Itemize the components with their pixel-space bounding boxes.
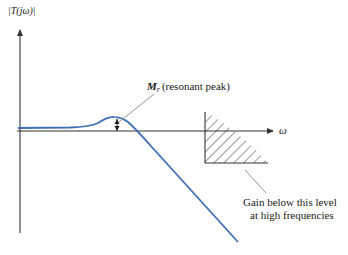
resonant-peak-description: (resonant peak): [162, 80, 230, 93]
high-frequency-gain-region: [205, 110, 271, 165]
x-axis-label: ω: [279, 124, 287, 136]
region-leader-line: [245, 170, 266, 193]
resonant-peak-leader-line: [119, 94, 154, 122]
resonant-peak-subscript: r: [157, 85, 161, 94]
region-label-line1: Gain below this level: [243, 196, 337, 208]
resonant-peak-label: Mr(resonant peak): [146, 80, 230, 94]
y-axis-label: |T(jω)|: [8, 5, 36, 17]
frequency-response-diagram: |T(jω)| ω Mr(resonant peak) Gain below t…: [0, 0, 348, 255]
region-label-line2: at high frequencies: [250, 209, 334, 221]
